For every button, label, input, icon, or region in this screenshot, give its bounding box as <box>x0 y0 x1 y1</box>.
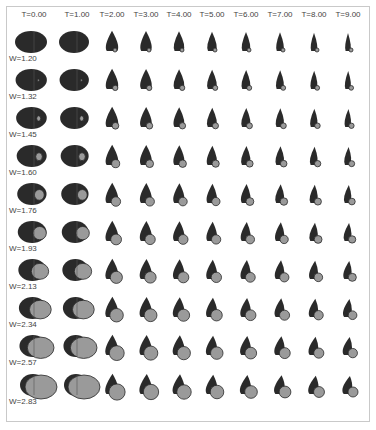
snapshot-W193-T800 <box>297 217 331 247</box>
snapshot-W234-T100 <box>60 293 94 323</box>
snapshot-W193-T000 <box>17 217 51 247</box>
snapshot-W283-T900 <box>331 370 365 400</box>
snapshot-W132-T600 <box>229 65 263 95</box>
snapshot-W283-T200 <box>95 370 129 400</box>
row-label-w6: W=2.13 <box>9 282 37 291</box>
snapshot-W257-T300 <box>129 331 163 361</box>
snapshot-W120-T500 <box>195 27 229 57</box>
snapshot-W234-T000 <box>17 293 51 323</box>
snapshot-W176-T200 <box>95 179 129 209</box>
snapshot-W213-T400 <box>162 255 196 285</box>
snapshot-W132-T500 <box>195 65 229 95</box>
snapshot-W234-T200 <box>95 293 129 323</box>
snapshot-W160-T800 <box>297 141 331 171</box>
row-label-w1: W=1.32 <box>9 92 37 101</box>
snapshot-W132-T700 <box>263 65 297 95</box>
snapshot-W145-T000 <box>17 103 51 133</box>
row-label-w7: W=2.34 <box>9 320 37 329</box>
snapshot-W213-T700 <box>263 255 297 285</box>
snapshot-W283-T000 <box>17 370 51 400</box>
row-label-w3: W=1.60 <box>9 168 37 177</box>
snapshot-W176-T600 <box>229 179 263 209</box>
snapshot-W145-T200 <box>95 103 129 133</box>
snapshot-W283-T100 <box>60 370 94 400</box>
snapshot-W160-T300 <box>129 141 163 171</box>
row-label-w5: W=1.93 <box>9 244 37 253</box>
snapshot-W132-T900 <box>331 65 365 95</box>
snapshot-W193-T200 <box>95 217 129 247</box>
snapshot-W145-T700 <box>263 103 297 133</box>
column-label-t6: T=6.00 <box>233 10 258 19</box>
snapshot-W257-T700 <box>263 331 297 361</box>
snapshot-W193-T600 <box>229 217 263 247</box>
snapshot-W120-T300 <box>129 27 163 57</box>
snapshot-W145-T400 <box>162 103 196 133</box>
snapshot-W193-T700 <box>263 217 297 247</box>
snapshot-W193-T900 <box>331 217 365 247</box>
snapshot-W145-T500 <box>195 103 229 133</box>
snapshot-W257-T200 <box>95 331 129 361</box>
snapshot-W234-T400 <box>162 293 196 323</box>
snapshot-W132-T300 <box>129 65 163 95</box>
snapshot-W257-T500 <box>195 331 229 361</box>
snapshot-W176-T300 <box>129 179 163 209</box>
row-label-w9: W=2.83 <box>9 397 37 406</box>
snapshot-W193-T500 <box>195 217 229 247</box>
snapshot-W193-T300 <box>129 217 163 247</box>
snapshot-W176-T400 <box>162 179 196 209</box>
column-label-t5: T=5.00 <box>199 10 224 19</box>
column-label-t8: T=8.00 <box>301 10 326 19</box>
snapshot-W120-T600 <box>229 27 263 57</box>
snapshot-W176-T500 <box>195 179 229 209</box>
snapshot-W145-T600 <box>229 103 263 133</box>
row-label-w2: W=1.45 <box>9 130 37 139</box>
snapshot-W160-T100 <box>60 141 94 171</box>
column-label-t1: T=1.00 <box>64 10 89 19</box>
snapshot-W193-T400 <box>162 217 196 247</box>
snapshot-W213-T600 <box>229 255 263 285</box>
snapshot-W283-T600 <box>229 370 263 400</box>
snapshot-W213-T900 <box>331 255 365 285</box>
snapshot-W132-T200 <box>95 65 129 95</box>
snapshot-W160-T700 <box>263 141 297 171</box>
column-label-t3: T=3.00 <box>133 10 158 19</box>
row-label-w4: W=1.76 <box>9 206 37 215</box>
snapshot-W132-T400 <box>162 65 196 95</box>
snapshot-W234-T500 <box>195 293 229 323</box>
column-label-t4: T=4.00 <box>166 10 191 19</box>
snapshot-W213-T800 <box>297 255 331 285</box>
snapshot-W160-T200 <box>95 141 129 171</box>
snapshot-W257-T400 <box>162 331 196 361</box>
column-label-t2: T=2.00 <box>99 10 124 19</box>
column-label-t9: T=9.00 <box>335 10 360 19</box>
snapshot-W193-T100 <box>60 217 94 247</box>
snapshot-W213-T200 <box>95 255 129 285</box>
snapshot-W120-T400 <box>162 27 196 57</box>
snapshot-W145-T300 <box>129 103 163 133</box>
snapshot-W176-T700 <box>263 179 297 209</box>
snapshot-W145-T900 <box>331 103 365 133</box>
snapshot-W160-T400 <box>162 141 196 171</box>
snapshot-W213-T500 <box>195 255 229 285</box>
snapshot-W160-T600 <box>229 141 263 171</box>
snapshot-W213-T100 <box>60 255 94 285</box>
snapshot-W160-T900 <box>331 141 365 171</box>
snapshot-W132-T800 <box>297 65 331 95</box>
snapshot-W120-T200 <box>95 27 129 57</box>
snapshot-W176-T800 <box>297 179 331 209</box>
snapshot-W257-T100 <box>60 331 94 361</box>
snapshot-W283-T800 <box>297 370 331 400</box>
snapshot-W234-T300 <box>129 293 163 323</box>
row-label-w0: W=1.20 <box>9 54 37 63</box>
snapshot-W120-T700 <box>263 27 297 57</box>
snapshot-W257-T800 <box>297 331 331 361</box>
snapshot-W234-T700 <box>263 293 297 323</box>
snapshot-W283-T700 <box>263 370 297 400</box>
snapshot-W213-T300 <box>129 255 163 285</box>
snapshot-W283-T400 <box>162 370 196 400</box>
column-label-t0: T=0.00 <box>21 10 46 19</box>
column-label-t7: T=7.00 <box>267 10 292 19</box>
snapshot-W176-T100 <box>60 179 94 209</box>
snapshot-W120-T100 <box>60 27 94 57</box>
snapshot-W160-T000 <box>17 141 51 171</box>
